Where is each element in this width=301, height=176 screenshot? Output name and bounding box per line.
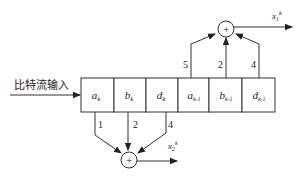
- bottom-tap-weight: 4: [168, 119, 173, 130]
- bottom-output-label: x2k: [167, 140, 178, 152]
- input-label: 比特流输入: [14, 78, 69, 92]
- bottom-tap-line: [138, 112, 166, 153]
- bottom-tap-weight: 2: [133, 119, 138, 130]
- top-tap-line: [236, 34, 259, 78]
- bottom-adder-group: + x2k 1 2 4: [95, 112, 178, 168]
- bottom-adder-symbol: +: [126, 154, 132, 166]
- shift-register: ak bk dk ak-1 bk-1 dk-1: [81, 78, 275, 112]
- register-cell: [242, 78, 275, 112]
- top-tap-weight: 5: [183, 59, 188, 70]
- register-cell: [209, 78, 242, 112]
- top-tap-weight: 4: [251, 59, 256, 70]
- register-cell: [178, 78, 209, 112]
- top-adder-symbol: +: [223, 23, 229, 35]
- top-tap-line: [191, 34, 215, 78]
- top-adder-group: + x1k 5 2 4: [183, 10, 292, 78]
- bottom-tap-weight: 1: [98, 119, 103, 130]
- top-output-label: x1k: [271, 10, 282, 22]
- convolutional-encoder-diagram: 比特流输入 ak bk dk ak-1 bk-1 dk-1 + x1k 5 2 …: [0, 0, 301, 176]
- top-tap-weight: 2: [218, 59, 223, 70]
